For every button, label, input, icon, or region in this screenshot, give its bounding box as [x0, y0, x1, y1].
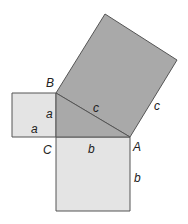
pythagorean-diagram: B C A a a b b c c [0, 0, 188, 224]
side-a-vertical-label: a [46, 107, 53, 121]
vertex-a-label: A [132, 140, 141, 154]
side-c-outer-label: c [154, 99, 160, 113]
vertex-c-label: C [43, 143, 52, 157]
side-b-vertical-label: b [134, 171, 141, 185]
vertex-b-label: B [46, 76, 54, 90]
side-a-horizontal-label: a [31, 122, 38, 136]
side-c-hypotenuse-label: c [93, 101, 99, 115]
side-b-horizontal-label: b [88, 142, 95, 156]
